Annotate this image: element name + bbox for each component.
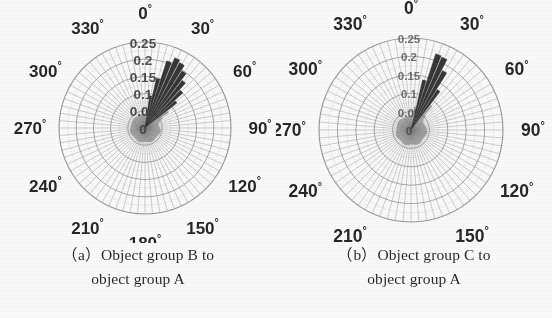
caption-b-line2: object group A [276,267,552,291]
svg-text:300°: 300° [29,59,62,80]
svg-text:270°: 270° [14,117,47,138]
svg-text:330°: 330° [333,13,367,34]
svg-text:0.1: 0.1 [401,88,418,100]
svg-text:150°: 150° [455,224,489,243]
svg-text:0.05: 0.05 [130,104,157,119]
polar-chart-a: 0°30°60°90°120°150°180°210°240°270°300°3… [0,0,276,243]
caption-a: （a）Object group B to object group A [0,243,276,290]
polar-rose-figure: 0°30°60°90°120°150°180°210°240°270°300°3… [0,0,552,318]
svg-text:240°: 240° [289,180,323,201]
svg-text:0.15: 0.15 [398,70,421,82]
polar-plot-svg-b: 0°30°60°90°120°150°180°210°240°270°300°3… [276,0,552,243]
svg-text:90°: 90° [248,117,271,138]
svg-text:0.05: 0.05 [398,107,421,119]
svg-text:0°: 0° [138,2,152,23]
svg-text:300°: 300° [289,58,323,79]
svg-text:330°: 330° [71,17,104,38]
svg-text:0.2: 0.2 [134,53,153,68]
panel-a: 0°30°60°90°120°150°180°210°240°270°300°3… [0,0,276,318]
svg-text:0.25: 0.25 [398,33,421,45]
caption-b-line1: （b）Object group C to [276,243,552,267]
svg-text:210°: 210° [333,224,367,243]
svg-text:270°: 270° [276,119,306,140]
svg-text:0.15: 0.15 [130,70,157,85]
panel-b: 0°30°60°90°120°150°180°210°240°270°300°3… [276,0,552,318]
svg-text:0°: 0° [404,0,418,18]
svg-text:240°: 240° [29,174,62,195]
polar-plot-svg-a: 0°30°60°90°120°150°180°210°240°270°300°3… [0,0,276,243]
polar-chart-b: 0°30°60°90°120°150°180°210°240°270°300°3… [276,0,552,243]
caption-b: （b）Object group C to object group A [276,243,552,290]
svg-text:0: 0 [139,122,147,137]
svg-text:30°: 30° [460,13,484,34]
svg-text:120°: 120° [500,180,534,201]
caption-a-line2: object group A [0,267,276,291]
svg-text:150°: 150° [186,216,219,237]
svg-text:60°: 60° [505,58,529,79]
svg-text:210°: 210° [71,216,104,237]
svg-text:120°: 120° [228,174,261,195]
caption-a-line1: （a）Object group B to [0,243,276,267]
svg-text:180°: 180° [129,232,162,243]
svg-text:30°: 30° [191,17,214,38]
svg-text:90°: 90° [521,119,545,140]
svg-text:0.1: 0.1 [134,87,153,102]
svg-text:0.25: 0.25 [130,36,157,51]
svg-text:60°: 60° [233,59,256,80]
svg-text:0.2: 0.2 [401,51,417,63]
svg-text:0: 0 [406,125,412,137]
